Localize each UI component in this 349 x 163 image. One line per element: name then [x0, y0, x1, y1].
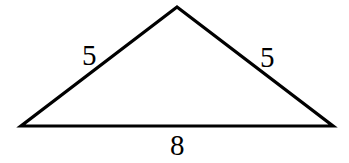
base-label: 8 — [170, 131, 185, 160]
triangle-diagram: 5 5 8 — [0, 0, 349, 163]
right-side-label: 5 — [260, 43, 275, 72]
left-side-label: 5 — [82, 41, 97, 70]
triangle-outline — [21, 7, 333, 126]
